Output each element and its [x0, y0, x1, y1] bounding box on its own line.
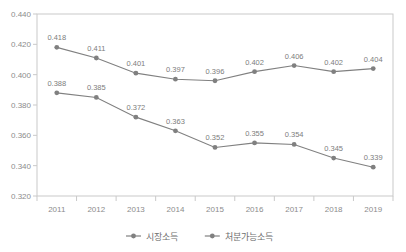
data-point-marker[interactable]: [54, 45, 59, 50]
x-axis-tick-label: 2011: [48, 205, 66, 214]
data-point-label: 0.401: [126, 59, 145, 68]
series-line: [57, 93, 373, 167]
x-axis-label-group: 201120122013201420152016201720182019: [48, 205, 382, 214]
data-point-label: 0.402: [245, 58, 264, 67]
x-axis-tick-label: 2014: [167, 205, 185, 214]
chart-legend: 시장소득처분가능소득: [126, 231, 273, 242]
data-point-label: 0.397: [166, 65, 185, 74]
legend-item[interactable]: 처분가능소득: [205, 231, 273, 242]
data-point-label: 0.411: [87, 44, 105, 53]
data-point-label: 0.363: [166, 117, 185, 126]
data-point-marker[interactable]: [292, 142, 297, 147]
x-axis-tick-label: 2016: [246, 205, 264, 214]
data-point-marker[interactable]: [94, 56, 99, 61]
data-point-label: 0.418: [47, 33, 66, 42]
data-point-marker[interactable]: [213, 145, 218, 150]
data-point-label: 0.352: [206, 133, 225, 142]
data-point-label: 0.339: [364, 153, 383, 162]
chart-container: 0.4400.4200.4000.3800.3600.3400.320 2011…: [0, 0, 406, 252]
data-point-marker[interactable]: [213, 78, 218, 83]
legend-dot-marker-icon: [131, 234, 136, 239]
data-point-marker[interactable]: [331, 156, 336, 161]
x-axis-tick-label: 2018: [325, 205, 343, 214]
data-point-label: 0.354: [285, 130, 304, 139]
legend-item[interactable]: 시장소득: [126, 232, 178, 242]
data-point-marker[interactable]: [173, 77, 178, 82]
data-point-marker[interactable]: [252, 69, 257, 74]
data-point-marker[interactable]: [331, 69, 336, 74]
x-axis-tick-label: 2012: [87, 205, 105, 214]
data-point-marker[interactable]: [252, 141, 257, 146]
data-point-marker[interactable]: [371, 66, 376, 71]
x-axis-tick-label: 2015: [206, 205, 224, 214]
data-point-label: 0.406: [285, 52, 304, 61]
data-point-label: 0.372: [126, 103, 145, 112]
data-point-label: 0.345: [324, 144, 343, 153]
data-point-marker[interactable]: [133, 115, 138, 120]
data-point-label: 0.396: [206, 67, 225, 76]
x-axis-tick-label: 2013: [127, 205, 145, 214]
data-point-label: 0.404: [364, 55, 383, 64]
y-axis-tick-label: 0.320: [11, 192, 32, 201]
legend-item-label: 시장소득: [146, 232, 178, 242]
legend-item-label: 처분가능소득: [225, 231, 273, 242]
data-point-marker[interactable]: [94, 95, 99, 100]
x-axis-tick-group: [37, 196, 393, 201]
plot-border: [37, 14, 393, 196]
legend-dot-marker-icon: [210, 234, 215, 239]
y-axis-tick-label: 0.380: [11, 101, 32, 110]
y-axis-tick-label: 0.340: [11, 162, 32, 171]
y-axis-tick-label: 0.360: [11, 131, 32, 140]
y-axis-tick-label: 0.440: [11, 10, 32, 19]
line-chart: 0.4400.4200.4000.3800.3600.3400.320 2011…: [0, 0, 406, 252]
data-point-marker[interactable]: [173, 128, 178, 133]
data-point-label: 0.388: [47, 79, 66, 88]
data-point-marker[interactable]: [292, 63, 297, 68]
data-point-marker[interactable]: [371, 165, 376, 170]
x-axis-tick-label: 2017: [285, 205, 303, 214]
y-axis-tick-label: 0.420: [11, 40, 32, 49]
data-point-marker[interactable]: [133, 71, 138, 76]
y-axis-tick-label: 0.400: [11, 71, 32, 80]
data-point-label: 0.385: [87, 83, 106, 92]
data-point-label: 0.355: [245, 129, 264, 138]
plot-area-frame: [37, 14, 393, 196]
y-axis-tick-group: 0.4400.4200.4000.3800.3600.3400.320: [11, 10, 37, 201]
data-point-marker[interactable]: [54, 90, 59, 95]
x-axis-tick-label: 2019: [364, 205, 382, 214]
data-point-label: 0.402: [324, 58, 343, 67]
